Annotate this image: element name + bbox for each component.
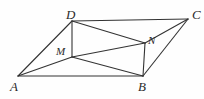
vertex-label-M: M — [56, 46, 65, 57]
edge-M-B — [72, 57, 143, 76]
edge-D-N — [72, 21, 145, 43]
geometry-figure: A B C D M N — [0, 0, 204, 99]
vertex-label-D: D — [66, 8, 75, 21]
vertex-label-A: A — [10, 80, 18, 93]
edge-B-C — [143, 19, 188, 76]
vertex-label-N: N — [148, 35, 155, 46]
edge-N-B — [143, 43, 145, 76]
edge-M-N — [72, 43, 145, 57]
edge-A-M — [18, 57, 72, 76]
vertex-label-B: B — [138, 80, 146, 93]
vertex-label-C: C — [192, 8, 201, 21]
geometry-diagram-canvas — [0, 0, 204, 99]
edge-D-C — [72, 19, 188, 21]
edge-group — [18, 19, 188, 76]
